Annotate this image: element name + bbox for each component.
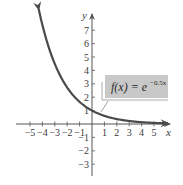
exponential-decay-chart: −5−4−3−2−112345 −3−2−11234567 x y f(x) =…	[0, 0, 183, 185]
y-tick-label: 2	[84, 92, 89, 103]
y-tick-label: −2	[78, 145, 89, 156]
x-tick-label: 3	[127, 127, 132, 138]
x-tick-label: −3	[49, 127, 60, 138]
y-tick-label: 4	[84, 65, 89, 76]
x-tick-label: 1	[102, 127, 107, 138]
y-tick-label: −1	[78, 132, 89, 143]
x-tick-label: 4	[139, 127, 144, 138]
y-tick-label: 6	[84, 38, 89, 49]
y-ticks: −3−2−11234567	[78, 25, 95, 170]
x-tick-label: −2	[62, 127, 73, 138]
x-tick-label: −5	[25, 127, 36, 138]
x-tick-label: 2	[114, 127, 119, 138]
y-tick-label: −3	[78, 159, 89, 170]
leader-line	[101, 101, 108, 112]
function-label-main: f(x) = e	[111, 80, 148, 94]
y-tick-label: 7	[84, 25, 89, 36]
y-axis-label: y	[81, 9, 87, 21]
x-tick-label: 5	[152, 127, 157, 138]
function-label-exponent: −0.5x	[150, 79, 167, 87]
y-tick-label: 3	[84, 78, 89, 89]
y-tick-label: 5	[84, 52, 89, 63]
x-axis-label: x	[165, 126, 171, 138]
x-tick-label: −4	[37, 127, 48, 138]
function-label: f(x) = e −0.5x	[101, 75, 168, 112]
exponential-curve	[39, 9, 168, 123]
